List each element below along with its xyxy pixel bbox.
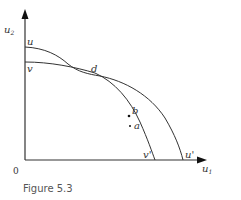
y-axis-label: u2: [4, 24, 14, 36]
label-v: v: [27, 63, 33, 74]
utility-possibility-diagram: u2 u1 u v u' v' d b a 0 Figure 5.3: [0, 0, 241, 200]
label-v-prime: v': [143, 149, 151, 160]
y-axis-arrow-icon: [22, 9, 29, 19]
label-a: a: [134, 120, 140, 131]
point-b-dot: [128, 115, 131, 118]
curve-u: [25, 47, 183, 160]
origin-label: 0: [13, 166, 19, 176]
x-axis-label: u1: [202, 163, 212, 175]
figure-caption: Figure 5.3: [23, 183, 73, 194]
label-u-prime: u': [185, 149, 194, 160]
point-a-dot: [129, 125, 131, 127]
label-b: b: [132, 105, 138, 116]
label-u: u: [27, 36, 33, 47]
label-d: d: [91, 63, 97, 74]
